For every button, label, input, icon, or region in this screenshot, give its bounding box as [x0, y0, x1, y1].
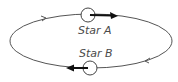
orbit-diagram	[0, 0, 178, 82]
star-b-label: Star B	[79, 48, 113, 59]
star-a-label: Star A	[78, 25, 112, 36]
arrowhead-right-icon	[110, 12, 118, 19]
star-a-velocity-arrow	[90, 15, 112, 16]
orbit-direction-chevron-icon	[41, 16, 46, 21]
arrowhead-left-icon	[66, 65, 74, 72]
